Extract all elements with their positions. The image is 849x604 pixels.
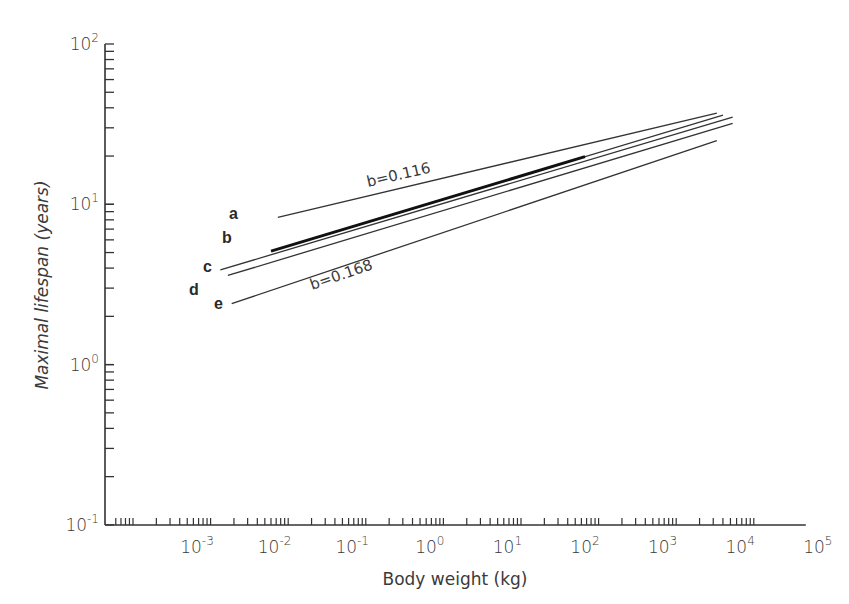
x-axis-title: Body weight (kg) (383, 569, 528, 589)
x-tick-label: 10-3 (180, 534, 214, 557)
x-tick-label: 105 (803, 534, 832, 557)
y-tick-label: 102 (70, 31, 99, 54)
series-label-a: a (229, 205, 238, 222)
slope-annotation: b=0.168 (307, 256, 374, 294)
y-tick-label: 10-1 (65, 512, 99, 535)
series-labels: abcde (189, 205, 238, 312)
x-tick-label: 10-2 (258, 534, 292, 557)
slope-annotation: b=0.116 (365, 159, 432, 191)
x-axis: 10-310-210-1100101102103104105 (105, 518, 832, 557)
series-label-c: c (203, 258, 212, 275)
series-line-e (232, 141, 717, 304)
x-tick-label: 10-1 (335, 534, 369, 557)
y-tick-label: 101 (70, 191, 99, 214)
x-tick-label: 104 (726, 534, 755, 557)
x-tick-label: 102 (570, 534, 599, 557)
series-label-d: d (189, 281, 199, 298)
annotations: b=0.116b=0.168 (307, 159, 432, 294)
series-label-b: b (222, 229, 232, 246)
x-tick-label: 101 (493, 534, 522, 557)
series-line-a (278, 113, 717, 217)
series-line-c (220, 117, 732, 270)
y-axis-title: Maximal lifespan (years) (32, 180, 52, 389)
plot-lines (220, 113, 732, 303)
y-axis: 10210110010-1 (65, 31, 114, 535)
series-line-d (228, 123, 733, 275)
x-tick-label: 100 (415, 534, 444, 557)
series-label-e: e (214, 295, 223, 312)
y-tick-label: 100 (70, 352, 99, 375)
x-tick-label: 103 (648, 534, 677, 557)
lifespan-chart: 10210110010-1 10-310-210-110010110210310… (0, 0, 849, 604)
